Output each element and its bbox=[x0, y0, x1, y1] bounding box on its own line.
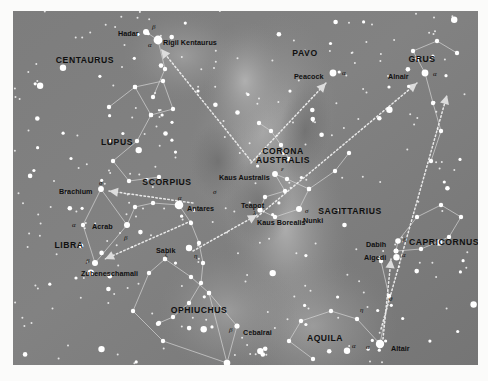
star bbox=[116, 244, 118, 246]
star bbox=[114, 26, 116, 28]
star bbox=[341, 177, 343, 179]
star bbox=[127, 179, 131, 183]
star bbox=[60, 65, 66, 71]
star bbox=[112, 85, 114, 87]
star bbox=[406, 148, 408, 150]
star-label-dabih: Dabih bbox=[366, 241, 386, 248]
star bbox=[18, 192, 20, 194]
star bbox=[346, 274, 348, 276]
star bbox=[393, 254, 399, 260]
star bbox=[267, 311, 269, 313]
star bbox=[98, 75, 101, 78]
star bbox=[270, 270, 276, 276]
star bbox=[263, 346, 268, 351]
star bbox=[358, 280, 360, 282]
star bbox=[285, 177, 289, 181]
star bbox=[213, 67, 215, 69]
star bbox=[78, 167, 80, 169]
star bbox=[135, 107, 137, 109]
constellation-label-capricornus: CAPRICORNUS bbox=[409, 238, 478, 247]
greek-label-4: θ bbox=[389, 296, 392, 303]
star bbox=[111, 159, 115, 163]
star bbox=[416, 117, 418, 119]
star bbox=[255, 182, 257, 184]
star bbox=[333, 20, 338, 25]
star bbox=[159, 116, 161, 118]
star bbox=[52, 308, 54, 310]
star bbox=[104, 183, 106, 185]
star bbox=[207, 291, 211, 295]
star bbox=[184, 22, 187, 25]
star bbox=[367, 306, 369, 308]
star bbox=[138, 283, 140, 285]
star bbox=[151, 313, 153, 315]
star-chart-frame: CENTAURUSLUPUSSCORPIUSLIBRAOPHIUCHUSCORO… bbox=[13, 11, 478, 365]
star bbox=[277, 201, 280, 204]
star bbox=[265, 354, 267, 356]
star bbox=[131, 246, 133, 248]
star bbox=[379, 332, 381, 334]
star bbox=[53, 180, 55, 182]
star bbox=[187, 326, 192, 331]
star bbox=[117, 354, 119, 356]
star bbox=[181, 285, 183, 287]
star bbox=[210, 325, 213, 328]
star bbox=[85, 222, 87, 224]
star bbox=[180, 215, 183, 218]
star bbox=[84, 227, 86, 229]
star bbox=[245, 281, 247, 283]
named-star-sabik bbox=[186, 245, 192, 251]
star-label-antares: Antares bbox=[187, 205, 214, 212]
star bbox=[261, 352, 266, 357]
star bbox=[249, 353, 251, 355]
star bbox=[182, 218, 184, 220]
star bbox=[277, 101, 279, 103]
named-star-altair bbox=[376, 340, 384, 348]
constellation-label-grus: GRUS bbox=[408, 55, 435, 64]
star bbox=[225, 207, 227, 209]
star-label-acrab: Acrab bbox=[92, 223, 113, 230]
star bbox=[192, 317, 194, 319]
star bbox=[347, 151, 351, 155]
star bbox=[127, 287, 129, 289]
star bbox=[365, 41, 367, 43]
greek-label-dabih: β bbox=[403, 237, 407, 244]
named-star-algedi bbox=[394, 249, 399, 254]
star bbox=[223, 120, 225, 122]
star bbox=[196, 89, 199, 92]
star bbox=[371, 24, 373, 26]
star bbox=[380, 53, 382, 55]
star bbox=[161, 113, 164, 116]
star bbox=[433, 17, 435, 19]
star bbox=[409, 113, 411, 115]
star bbox=[456, 330, 459, 333]
star-label-rigil-kentaurus: Rigil Kentaurus bbox=[163, 39, 217, 46]
star bbox=[304, 323, 307, 326]
named-star-alnair bbox=[422, 70, 429, 77]
star bbox=[271, 60, 273, 62]
named-star-peacock bbox=[330, 70, 337, 77]
star bbox=[14, 87, 16, 89]
star bbox=[433, 33, 435, 35]
star bbox=[287, 318, 289, 320]
star bbox=[80, 297, 82, 299]
star bbox=[133, 205, 137, 209]
star bbox=[310, 290, 312, 292]
star bbox=[106, 287, 111, 292]
named-star-dabih bbox=[395, 238, 401, 244]
star bbox=[276, 135, 278, 137]
star-label-alnair: Alnair bbox=[388, 73, 409, 80]
star bbox=[81, 207, 84, 210]
star bbox=[257, 121, 261, 125]
greek-label-rasalhague: α bbox=[218, 363, 222, 365]
star bbox=[414, 269, 419, 274]
star bbox=[120, 16, 122, 18]
star bbox=[329, 42, 332, 45]
star bbox=[113, 293, 115, 295]
star bbox=[382, 250, 384, 252]
star bbox=[35, 116, 40, 121]
star bbox=[89, 32, 91, 34]
star bbox=[462, 259, 465, 262]
constellation-label-centaurus: CENTAURUS bbox=[56, 56, 114, 65]
star bbox=[406, 67, 411, 72]
